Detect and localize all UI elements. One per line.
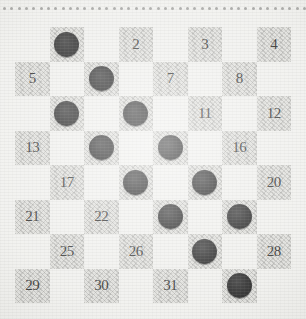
black-piece[interactable] — [192, 239, 217, 264]
square-number-label: 4 — [257, 27, 292, 62]
perforation-dot — [91, 7, 94, 10]
black-piece[interactable] — [89, 66, 114, 91]
perforation-dot — [179, 7, 182, 10]
board-square-light — [257, 131, 292, 166]
draughts-board[interactable]: 2345781112131617202122252628293031 — [15, 27, 291, 303]
board-square-light — [222, 234, 257, 269]
board-square-light — [153, 165, 188, 200]
perforation-dot — [40, 7, 43, 10]
board-square-32[interactable] — [222, 269, 257, 304]
perforation-dot — [186, 7, 189, 10]
perforation-dot — [32, 7, 35, 10]
board-square-27[interactable] — [188, 234, 223, 269]
board-square-light — [15, 234, 50, 269]
board-square-14[interactable] — [84, 131, 119, 166]
black-piece[interactable] — [89, 135, 114, 160]
board-square-25[interactable]: 25 — [50, 234, 85, 269]
perforation-dot — [120, 7, 123, 10]
board-square-light — [15, 165, 50, 200]
board-square-light — [153, 96, 188, 131]
board-square-15[interactable] — [153, 131, 188, 166]
board-square-6[interactable] — [84, 62, 119, 97]
square-number-label: 20 — [257, 165, 292, 200]
board-square-13[interactable]: 13 — [15, 131, 50, 166]
perforation-dot — [193, 7, 196, 10]
board-square-1[interactable] — [50, 27, 85, 62]
perforation-dot — [223, 7, 226, 10]
perforation-dot — [25, 7, 28, 10]
board-square-24[interactable] — [222, 200, 257, 235]
board-square-28[interactable]: 28 — [257, 234, 292, 269]
board-square-9[interactable] — [50, 96, 85, 131]
board-square-19[interactable] — [188, 165, 223, 200]
perforation-dot — [281, 7, 284, 10]
perforation-dot — [157, 7, 160, 10]
board-square-18[interactable] — [119, 165, 154, 200]
black-piece[interactable] — [227, 273, 252, 298]
board-square-16[interactable]: 16 — [222, 131, 257, 166]
perforation-dot — [274, 7, 277, 10]
board-square-light — [188, 200, 223, 235]
board-square-17[interactable]: 17 — [50, 165, 85, 200]
perforation-dot — [259, 7, 262, 10]
perforation-dot — [113, 7, 116, 10]
board-square-light — [222, 165, 257, 200]
board-square-23[interactable] — [153, 200, 188, 235]
board-square-29[interactable]: 29 — [15, 269, 50, 304]
board-square-light — [84, 234, 119, 269]
board-square-7[interactable]: 7 — [153, 62, 188, 97]
board-square-light — [50, 131, 85, 166]
board-square-12[interactable]: 12 — [257, 96, 292, 131]
board-square-31[interactable]: 31 — [153, 269, 188, 304]
square-number-label: 3 — [188, 27, 223, 62]
board-square-light — [257, 200, 292, 235]
perforation-dot — [296, 7, 299, 10]
black-piece[interactable] — [54, 101, 79, 126]
board-square-30[interactable]: 30 — [84, 269, 119, 304]
black-piece[interactable] — [123, 170, 148, 195]
board-square-21[interactable]: 21 — [15, 200, 50, 235]
perforation-dot — [54, 7, 57, 10]
board-square-20[interactable]: 20 — [257, 165, 292, 200]
board-square-light — [50, 200, 85, 235]
perforation-dot — [18, 7, 21, 10]
board-square-22[interactable]: 22 — [84, 200, 119, 235]
scanned-page: 2345781112131617202122252628293031 — [0, 0, 306, 319]
board-square-light — [50, 269, 85, 304]
board-square-5[interactable]: 5 — [15, 62, 50, 97]
board-square-8[interactable]: 8 — [222, 62, 257, 97]
black-piece[interactable] — [158, 204, 183, 229]
board-square-26[interactable]: 26 — [119, 234, 154, 269]
board-square-light — [119, 200, 154, 235]
black-piece[interactable] — [158, 135, 183, 160]
square-number-label: 2 — [119, 27, 154, 62]
black-piece[interactable] — [54, 32, 79, 57]
perforation-dot — [76, 7, 79, 10]
perforation-dot — [244, 7, 247, 10]
square-number-label: 22 — [84, 200, 119, 235]
board-square-light — [119, 131, 154, 166]
perforation-dot — [252, 7, 255, 10]
square-number-label: 21 — [15, 200, 50, 235]
board-square-light — [119, 269, 154, 304]
board-square-light — [84, 96, 119, 131]
square-number-label: 16 — [222, 131, 257, 166]
board-square-2[interactable]: 2 — [119, 27, 154, 62]
board-square-11[interactable]: 11 — [188, 96, 223, 131]
perforation-strip — [0, 7, 306, 14]
perforation-dot — [62, 7, 65, 10]
board-square-light — [222, 27, 257, 62]
perforation-dot — [266, 7, 269, 10]
board-square-light — [222, 96, 257, 131]
square-number-label: 30 — [84, 269, 119, 304]
board-square-3[interactable]: 3 — [188, 27, 223, 62]
perforation-dot — [171, 7, 174, 10]
board-square-light — [84, 165, 119, 200]
board-square-light — [15, 96, 50, 131]
black-piece[interactable] — [227, 204, 252, 229]
black-piece[interactable] — [123, 101, 148, 126]
board-square-4[interactable]: 4 — [257, 27, 292, 62]
board-square-light — [188, 62, 223, 97]
black-piece[interactable] — [192, 170, 217, 195]
board-square-10[interactable] — [119, 96, 154, 131]
